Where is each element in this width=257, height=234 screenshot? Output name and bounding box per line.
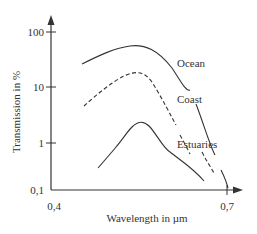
y-tick-10: 10: [33, 81, 45, 93]
x-tick-0-7: 0,7: [220, 200, 234, 212]
label-coast: Coast: [177, 93, 202, 105]
chart: 100 10 1 0,1 0,4 0,7 Wavelength in µm Tr…: [0, 0, 257, 234]
x-axis-arrow-icon: [233, 187, 243, 194]
x-axis-label: Wavelength in µm: [106, 212, 188, 224]
x-tick-0-4: 0,4: [47, 200, 61, 212]
y-tick-0-1: 0,1: [30, 184, 44, 196]
series-estuaries: [98, 122, 204, 181]
y-axis-arrow-icon: [48, 15, 55, 25]
y-tick-1: 1: [39, 137, 45, 149]
y-axis-label: Transmission in %: [10, 71, 22, 153]
series-ocean: [82, 46, 228, 188]
label-ocean: Ocean: [177, 57, 206, 69]
series-coast: [84, 73, 214, 173]
label-estuaries: Estuaries: [177, 138, 217, 150]
y-tick-100: 100: [28, 26, 45, 38]
